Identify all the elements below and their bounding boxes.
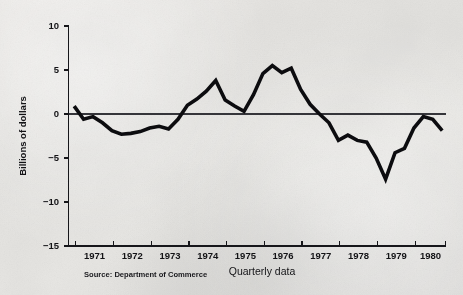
x-axis-ticks bbox=[76, 241, 446, 247]
x-tick-label-1977: 1977 bbox=[310, 250, 331, 261]
x-axis-title: Quarterly data bbox=[229, 265, 296, 277]
source-note: Source: Department of Commerce bbox=[84, 270, 207, 279]
x-tick-label-1978: 1978 bbox=[348, 250, 369, 261]
y-tick-labels: 10 5 0 −5 −10 −15 bbox=[43, 20, 60, 251]
y-tick-label-neg10: −10 bbox=[43, 196, 59, 207]
line-chart-plot: 10 5 0 −5 −10 −15 1971 1972 1973 1974 bbox=[0, 0, 463, 295]
y-tick-label-0: 0 bbox=[54, 108, 59, 119]
x-tick-label-1980: 1980 bbox=[420, 250, 441, 261]
y-tick-label-10: 10 bbox=[48, 20, 59, 31]
x-tick-label-1973: 1973 bbox=[159, 250, 180, 261]
x-tick-label-1975: 1975 bbox=[235, 250, 257, 261]
chart-figure: 10 5 0 −5 −10 −15 1971 1972 1973 1974 bbox=[0, 0, 463, 295]
y-tick-label-neg15: −15 bbox=[43, 240, 60, 251]
x-tick-label-1979: 1979 bbox=[386, 250, 407, 261]
y-tick-label-neg5: −5 bbox=[48, 152, 60, 163]
x-tick-label-1974: 1974 bbox=[197, 250, 219, 261]
x-tick-labels: 1971 1972 1973 1974 1975 1976 1977 1978 … bbox=[84, 250, 441, 261]
x-tick-label-1971: 1971 bbox=[84, 250, 106, 261]
x-tick-label-1976: 1976 bbox=[273, 250, 294, 261]
y-axis-ticks bbox=[64, 26, 69, 246]
y-tick-label-5: 5 bbox=[54, 64, 60, 75]
data-series-line bbox=[74, 66, 442, 180]
x-tick-label-1972: 1972 bbox=[122, 250, 143, 261]
y-axis-title: Billions of dollars bbox=[17, 96, 28, 176]
